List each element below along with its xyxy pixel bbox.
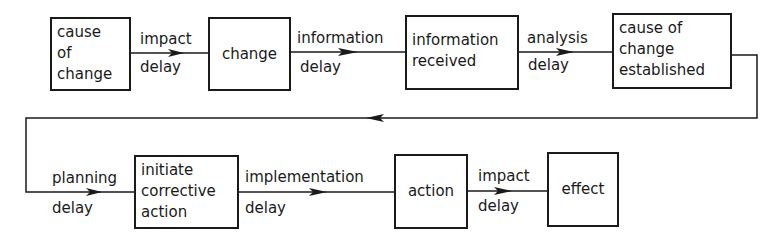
- node-text: information: [412, 30, 512, 51]
- node-text: action: [408, 181, 454, 202]
- node-cause-of-change: cause of change: [50, 17, 131, 91]
- node-text: effect: [562, 179, 605, 200]
- node-text: of: [57, 43, 124, 64]
- node-text: cause of: [619, 18, 725, 39]
- delay-flow-diagram: cause of change change information recei…: [0, 0, 779, 246]
- node-information-received: information received: [405, 15, 519, 90]
- edge-label-top: analysis: [527, 29, 588, 47]
- edge-label-top: implementation: [245, 168, 364, 186]
- node-text: change: [619, 39, 725, 60]
- node-text: cause: [57, 22, 124, 43]
- edge-label-bottom: delay: [52, 199, 93, 217]
- node-text: change: [57, 64, 124, 85]
- edge-label-bottom: delay: [528, 56, 569, 74]
- edge-label-top: planning: [52, 169, 117, 187]
- edge-label-top: impact: [478, 167, 530, 185]
- edge-label-bottom: delay: [300, 58, 341, 76]
- node-cause-of-change-established: cause of change established: [612, 13, 732, 89]
- edge-label-bottom: delay: [245, 199, 286, 217]
- node-initiate-corrective-action: initiate corrective action: [134, 155, 239, 229]
- node-action: action: [394, 154, 468, 229]
- node-text: established: [619, 60, 725, 81]
- node-change: change: [208, 17, 291, 91]
- edge-label-top: information: [297, 29, 384, 47]
- node-text: initiate: [141, 160, 232, 181]
- node-text: change: [222, 44, 277, 65]
- node-text: corrective: [141, 181, 232, 202]
- edge-label-top: impact: [140, 30, 192, 48]
- node-text: action: [141, 202, 232, 223]
- node-text: received: [412, 51, 512, 72]
- node-effect: effect: [547, 152, 619, 227]
- edge-label-bottom: delay: [140, 58, 181, 76]
- edge-label-bottom: delay: [478, 197, 519, 215]
